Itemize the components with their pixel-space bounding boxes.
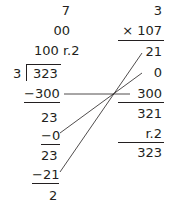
connector-lines: [0, 0, 174, 210]
connector-0: [60, 73, 142, 133]
connector-21: [60, 53, 142, 172]
